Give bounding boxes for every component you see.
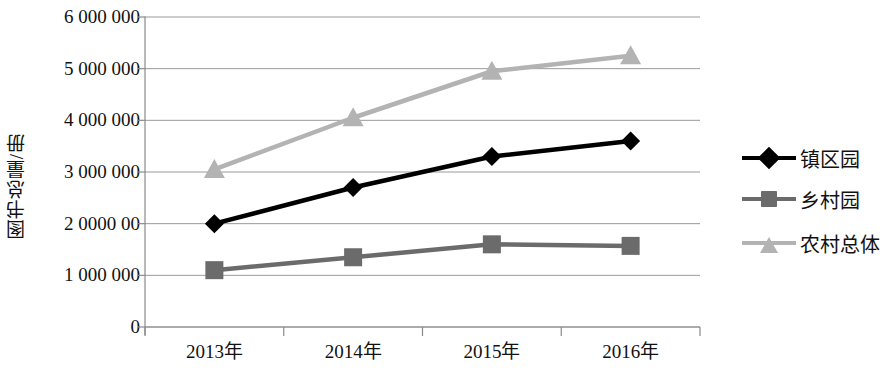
data-point-1-2 xyxy=(483,235,501,253)
y-tick-label-1: 1 000 000 xyxy=(30,264,140,286)
legend-swatch-square-icon xyxy=(742,188,796,210)
plot-area xyxy=(145,17,700,327)
y-axis-tick-labels: 01 000 0002 0000 003 000 0004 000 0005 0… xyxy=(22,0,140,372)
legend-swatch-triangle-icon xyxy=(742,232,796,254)
legend-item-镇区园[interactable]: 镇区园 xyxy=(742,145,860,171)
data-series xyxy=(204,45,641,279)
chart-figure: 图书总量/册 01 000 0002 0000 003 000 0004 000… xyxy=(0,0,888,372)
x-axis-tick-labels: 2013年2014年2015年2016年 xyxy=(145,336,700,370)
data-point-0-3 xyxy=(621,132,640,151)
series-农村总体 xyxy=(204,45,641,178)
legend-marker-diamond-icon xyxy=(758,147,781,170)
data-point-1-1 xyxy=(344,248,362,266)
x-tick-label-0: 2013年 xyxy=(144,336,284,363)
legend-label-0: 镇区园 xyxy=(800,144,860,173)
y-tick-label-5: 5 000 000 xyxy=(30,58,140,80)
data-point-0-2 xyxy=(482,147,501,166)
legend-label-2: 农村总体 xyxy=(800,229,880,258)
legend-marker-square-icon xyxy=(761,191,777,207)
y-tick-label-0: 0 xyxy=(30,316,140,338)
data-point-0-1 xyxy=(344,178,363,197)
data-point-0-0 xyxy=(205,214,224,233)
x-tick-label-3: 2016年 xyxy=(561,336,701,363)
legend-item-乡村园[interactable]: 乡村园 xyxy=(742,186,860,212)
legend-item-农村总体[interactable]: 农村总体 xyxy=(742,230,880,256)
series-line-1 xyxy=(214,244,630,270)
legend-label-1: 乡村园 xyxy=(800,185,860,214)
y-tick-label-3: 3 000 000 xyxy=(30,161,140,183)
data-point-1-0 xyxy=(205,261,223,279)
x-tick-label-1: 2014年 xyxy=(283,336,423,363)
chart-plot-svg xyxy=(145,17,700,327)
y-tick-label-4: 4 000 000 xyxy=(30,109,140,131)
y-tick-label-2: 2 0000 00 xyxy=(30,213,140,235)
legend: 镇区园乡村园农村总体 xyxy=(742,140,888,260)
series-line-0 xyxy=(214,141,630,224)
data-point-1-3 xyxy=(622,237,640,255)
legend-marker-triangle-icon xyxy=(760,237,778,253)
x-tick-label-2: 2015年 xyxy=(422,336,562,363)
series-乡村园 xyxy=(205,235,639,279)
legend-swatch-diamond-icon xyxy=(742,147,796,169)
y-tick-label-6: 6 000 000 xyxy=(30,6,140,28)
series-line-2 xyxy=(214,56,630,170)
